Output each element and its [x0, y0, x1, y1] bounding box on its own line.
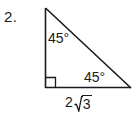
geometry-figure-container: 2. 45° 45° 2 3	[0, 0, 140, 118]
angle-label-top-vertex: 45°	[48, 31, 69, 45]
side-label-coefficient: 2	[65, 95, 73, 109]
side-label-radicand: 3	[82, 95, 92, 111]
side-label-base: 2 3	[65, 95, 92, 112]
radical-expression: 3	[74, 95, 92, 112]
angle-label-bottom-right-vertex: 45°	[84, 70, 105, 84]
right-angle-marker-icon	[46, 78, 56, 88]
